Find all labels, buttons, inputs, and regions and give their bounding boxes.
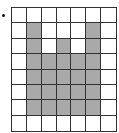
grid-cell-shaded [86, 39, 101, 54]
grid-cell-shaded [27, 85, 42, 100]
grid-cell-empty [12, 85, 27, 100]
grid-cell-empty [71, 23, 86, 38]
grid-cell-empty [12, 116, 27, 131]
grid-cell-empty [42, 39, 57, 54]
grid-cell-empty [42, 23, 57, 38]
grid-cell-empty [57, 23, 72, 38]
grid-cell-empty [42, 8, 57, 23]
grid-cell-empty [12, 100, 27, 115]
grid-cell-empty [101, 85, 116, 100]
grid-cell-empty [27, 8, 42, 23]
grid-cell-empty [57, 116, 72, 131]
grid-cell-shaded [42, 100, 57, 115]
grid-cell-shaded [27, 23, 42, 38]
grid-cell-empty [101, 8, 116, 23]
grid-cell-empty [12, 8, 27, 23]
grid-cell-empty [86, 116, 101, 131]
grid-cell-empty [71, 8, 86, 23]
grid-cell-shaded [57, 100, 72, 115]
grid-cell-shaded [86, 70, 101, 85]
grid-cell-empty [71, 39, 86, 54]
grid-cell-empty [101, 100, 116, 115]
grid-cell-shaded [86, 23, 101, 38]
grid-cell-empty [101, 23, 116, 38]
grid-cell-shaded [57, 54, 72, 69]
grid-cell-shaded [42, 85, 57, 100]
grid-cell-empty [71, 116, 86, 131]
shaded-grid [11, 7, 117, 132]
grid-cell-shaded [27, 70, 42, 85]
grid-cell-empty [12, 70, 27, 85]
grid-cell-shaded [42, 54, 57, 69]
grid-cell-empty [27, 116, 42, 131]
grid-cell-empty [101, 70, 116, 85]
grid-cell-shaded [57, 85, 72, 100]
grid-cell-shaded [57, 70, 72, 85]
grid-cell-shaded [71, 54, 86, 69]
grid-cell-empty [86, 8, 101, 23]
grid-cell-shaded [71, 70, 86, 85]
grid-cell-shaded [27, 54, 42, 69]
grid-cell-empty [42, 116, 57, 131]
grid-cell-empty [101, 39, 116, 54]
grid-cell-shaded [27, 39, 42, 54]
grid-cell-shaded [71, 85, 86, 100]
grid-cell-shaded [71, 100, 86, 115]
grid-cell-shaded [57, 39, 72, 54]
bullet-marker [2, 14, 5, 17]
grid-cell-shaded [86, 85, 101, 100]
grid-cell-empty [101, 116, 116, 131]
grid-cell-shaded [27, 100, 42, 115]
grid-cell-empty [12, 54, 27, 69]
grid-cell-shaded [86, 100, 101, 115]
grid-cell-empty [12, 39, 27, 54]
grid-cell-empty [12, 23, 27, 38]
grid-cell-shaded [42, 70, 57, 85]
grid-cell-empty [101, 54, 116, 69]
grid-cell-shaded [86, 54, 101, 69]
grid-cell-empty [57, 8, 72, 23]
